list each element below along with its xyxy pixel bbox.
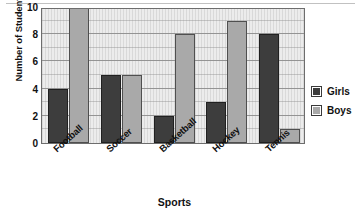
legend-item-girls: Girls xyxy=(311,84,359,98)
y-axis-tick-8: 8 xyxy=(14,30,38,40)
y-axis-tick-6: 6 xyxy=(14,57,38,67)
bar-football-boys xyxy=(69,8,89,143)
y-axis-tick-10: 10 xyxy=(14,3,38,13)
bar-hockey-boys xyxy=(227,21,247,143)
footer-ghost-text xyxy=(2,213,152,221)
legend-swatch-girls xyxy=(311,86,322,97)
legend-item-boys: Boys xyxy=(311,103,359,117)
legend-label-boys: Boys xyxy=(327,105,351,116)
legend-swatch-boys xyxy=(311,105,322,116)
y-axis-tick-2: 2 xyxy=(14,112,38,122)
top-divider-rule xyxy=(6,3,355,4)
bar-series-container xyxy=(42,9,304,143)
chart-legend: GirlsBoys xyxy=(311,84,359,118)
x-axis-title-text: Sports xyxy=(158,196,191,208)
legend-label-girls: Girls xyxy=(327,86,350,97)
y-axis-tick-labels: 1086420 xyxy=(14,0,38,221)
bar-chart: Number of Students 1086420 FootballSocce… xyxy=(0,0,361,221)
bar-tennis-girls xyxy=(259,34,279,143)
x-axis-tick-labels: FootballSoccerBasketballHockeyTennis xyxy=(41,146,305,190)
y-axis-tick-0: 0 xyxy=(14,139,38,149)
plot-area xyxy=(41,8,305,144)
y-axis-tick-4: 4 xyxy=(14,85,38,95)
x-axis-title: Sports xyxy=(0,196,361,208)
